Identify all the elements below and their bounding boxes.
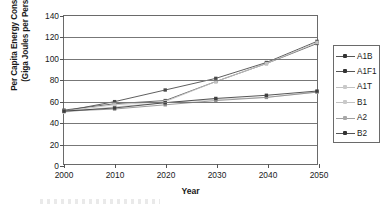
x-axis-title: Year <box>63 186 318 196</box>
data-point <box>315 89 318 92</box>
y-tick-mark <box>60 16 64 17</box>
legend-item-label: B2 <box>355 129 367 138</box>
x-tick-label: 2010 <box>106 170 125 180</box>
y-gridline <box>64 123 317 124</box>
x-tick-label: 2050 <box>310 170 329 180</box>
y-axis-title: Per Capita Energy Consumed (Giga Joules … <box>10 0 31 110</box>
y-gridline <box>64 102 317 103</box>
data-point <box>265 94 268 97</box>
legend-item-label: A1F1 <box>355 67 377 76</box>
y-gridline <box>64 37 317 38</box>
legend-marker-icon <box>336 51 355 61</box>
data-point <box>164 88 167 91</box>
y-tick-mark <box>60 59 64 60</box>
legend-marker-icon <box>336 128 355 138</box>
legend-marker-icon <box>336 97 355 107</box>
series-line <box>64 43 317 110</box>
legend-item-label: B1 <box>355 98 367 107</box>
legend-item-label: A1T <box>355 82 372 91</box>
legend-item-a2[interactable]: A2 <box>336 111 380 125</box>
legend-item-a1b[interactable]: A1B <box>336 49 380 63</box>
legend-item-a1t[interactable]: A1T <box>336 80 380 94</box>
y-tick-mark <box>60 102 64 103</box>
y-tick-label: 40 <box>50 118 59 128</box>
y-tick-label: 60 <box>50 97 59 107</box>
legend-item-b1[interactable]: B1 <box>336 95 380 109</box>
y-tick-label: 20 <box>50 140 59 150</box>
legend-item-label: A2 <box>355 113 367 122</box>
x-tick-label: 2030 <box>208 170 227 180</box>
y-tick-label: 120 <box>45 32 59 42</box>
data-point <box>315 41 318 44</box>
y-tick-label: 140 <box>45 11 59 21</box>
x-tick-label: 2040 <box>259 170 278 180</box>
legend-item-b2[interactable]: B2 <box>336 126 380 140</box>
y-tick-mark <box>60 145 64 146</box>
data-point <box>265 62 268 65</box>
legend-item-a1f1[interactable]: A1F1 <box>336 64 380 78</box>
scan-noise <box>40 199 160 204</box>
x-tick-label: 2000 <box>55 170 74 180</box>
y-tick-mark <box>60 37 64 38</box>
y-tick-mark <box>60 123 64 124</box>
data-point <box>113 106 116 109</box>
x-tick-mark <box>268 164 269 168</box>
y-gridline <box>64 145 317 146</box>
y-gridline <box>64 59 317 60</box>
x-tick-mark <box>217 164 218 168</box>
y-tick-mark <box>60 80 64 81</box>
x-tick-mark <box>64 164 65 168</box>
y-tick-label: 80 <box>50 75 59 85</box>
plot-area: 0204060801001201402000201020202030204020… <box>63 15 318 165</box>
x-tick-mark <box>166 164 167 168</box>
data-point <box>62 109 65 112</box>
legend-marker-icon <box>336 66 355 76</box>
x-tick-label: 2020 <box>157 170 176 180</box>
x-tick-mark <box>319 164 320 168</box>
y-gridline <box>64 80 317 81</box>
legend-item-label: A1B <box>355 52 372 61</box>
x-tick-mark <box>115 164 116 168</box>
legend-marker-icon <box>336 82 355 92</box>
y-tick-label: 100 <box>45 54 59 64</box>
chart-figure: Per Capita Energy Consumed (Giga Joules … <box>0 0 387 209</box>
legend-marker-icon <box>336 113 355 123</box>
chart-legend: A1BA1F1A1TB1A2B2 <box>333 45 380 143</box>
data-point <box>214 97 217 100</box>
